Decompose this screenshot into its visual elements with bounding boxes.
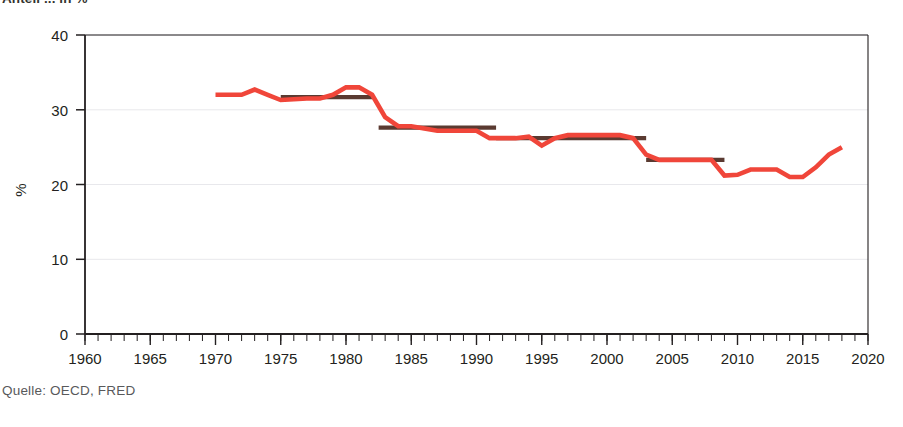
y-tick-labels: 40 30 20 10 0 (51, 27, 68, 343)
y-tick-label-0: 0 (60, 326, 68, 343)
source-label: Quelle: OECD, FRED (2, 383, 135, 398)
y-tick-label-20: 20 (51, 177, 68, 194)
x-tick-label-2020: 2020 (851, 350, 884, 367)
y-tick-label-40: 40 (51, 27, 68, 44)
chart-figure: Anteil ... in % 40 30 20 (0, 0, 903, 427)
chart-plot: 40 30 20 10 0 % 196019651970197519801985… (0, 0, 903, 380)
chart-title-clipped: Anteil ... in % (0, 0, 903, 7)
x-tick-label-2000: 2000 (590, 350, 623, 367)
chart-title-text: Anteil ... in % (0, 0, 903, 6)
series-line-jahreswert (216, 87, 842, 177)
x-tick-label-2015: 2015 (786, 350, 819, 367)
x-tick-label-1975: 1975 (264, 350, 297, 367)
x-tick-label-2010: 2010 (721, 350, 754, 367)
x-tick-label-1990: 1990 (460, 350, 493, 367)
x-tick-label-1995: 1995 (525, 350, 558, 367)
x-tick-label-1960: 1960 (68, 350, 101, 367)
period-average-segments (281, 97, 725, 160)
x-tick-label-1970: 1970 (199, 350, 232, 367)
x-tick-label-1965: 1965 (134, 350, 167, 367)
x-tick-label-1985: 1985 (395, 350, 428, 367)
gridlines (85, 35, 868, 259)
y-tick-label-10: 10 (51, 251, 68, 268)
y-ticks (76, 35, 85, 334)
x-tick-label-2005: 2005 (656, 350, 689, 367)
y-tick-label-30: 30 (51, 102, 68, 119)
x-tick-labels: 1960196519701975198019851990199520002005… (68, 350, 884, 367)
x-tick-label-1980: 1980 (329, 350, 362, 367)
y-axis-title: % (12, 183, 29, 196)
